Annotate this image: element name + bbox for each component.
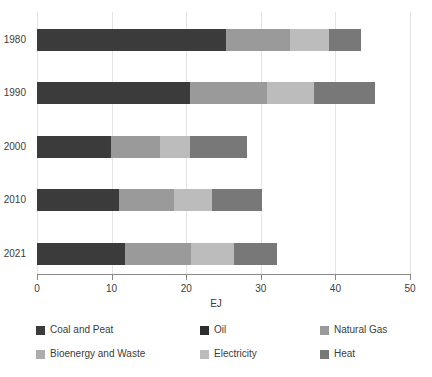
- x-tick-label: 0: [17, 283, 57, 295]
- x-tick-label: 50: [390, 283, 430, 295]
- category-label-1980: 1980: [0, 34, 26, 46]
- chart-legend: Coal and PeatOilNatural GasBioenergy and…: [0, 316, 432, 376]
- bar-segment: [191, 243, 234, 265]
- bar-segment: [174, 189, 212, 211]
- bar-segment: [160, 136, 190, 158]
- bar-segment: [190, 82, 267, 104]
- bar-segment: [37, 243, 125, 265]
- x-tick-label: 20: [166, 283, 206, 295]
- bar-segment: [37, 82, 190, 104]
- legend-label: Coal and Peat: [50, 324, 113, 336]
- bar-segment: [37, 29, 226, 51]
- legend-item[interactable]: Electricity: [200, 348, 257, 360]
- legend-item[interactable]: Natural Gas: [320, 324, 387, 336]
- legend-label: Electricity: [214, 348, 257, 360]
- bar-segment: [290, 29, 329, 51]
- legend-label: Natural Gas: [334, 324, 387, 336]
- category-label-2000: 2000: [0, 141, 26, 153]
- bar-segment: [125, 243, 191, 265]
- tick-mark: [410, 275, 411, 280]
- gridline: [410, 12, 411, 274]
- x-axis-line: [37, 274, 411, 275]
- legend-swatch-icon: [200, 326, 209, 335]
- bar-segment: [314, 82, 375, 104]
- legend-item[interactable]: Oil: [200, 324, 226, 336]
- bar-segment: [226, 29, 289, 51]
- legend-swatch-icon: [320, 350, 329, 359]
- tick-mark: [186, 275, 187, 280]
- bar-segment: [190, 136, 247, 158]
- tick-mark: [261, 275, 262, 280]
- bar-segment: [234, 243, 277, 265]
- bar-segment: [329, 29, 361, 51]
- x-axis-title: EJ: [0, 298, 432, 309]
- bar-segment: [37, 189, 119, 211]
- category-label-1990: 1990: [0, 87, 26, 99]
- tick-mark: [335, 275, 336, 280]
- legend-label: Bioenergy and Waste: [50, 348, 145, 360]
- stacked-bar-chart: 01020304050 EJ 19801990200020102021 Coal…: [0, 0, 432, 377]
- x-tick-label: 30: [241, 283, 281, 295]
- legend-item[interactable]: Heat: [320, 348, 355, 360]
- gridline: [261, 12, 262, 274]
- x-tick-label: 40: [315, 283, 355, 295]
- bar-segment: [267, 82, 314, 104]
- plot-area: [37, 12, 410, 274]
- legend-label: Heat: [334, 348, 355, 360]
- tick-mark: [37, 275, 38, 280]
- legend-swatch-icon: [320, 326, 329, 335]
- bar-segment: [212, 189, 261, 211]
- legend-label: Oil: [214, 324, 226, 336]
- legend-item[interactable]: Coal and Peat: [36, 324, 113, 336]
- legend-swatch-icon: [36, 350, 45, 359]
- legend-swatch-icon: [200, 350, 209, 359]
- category-label-2010: 2010: [0, 194, 26, 206]
- legend-item[interactable]: Bioenergy and Waste: [36, 348, 145, 360]
- x-tick-label: 10: [92, 283, 132, 295]
- tick-mark: [112, 275, 113, 280]
- bar-segment: [111, 136, 160, 158]
- category-label-2021: 2021: [0, 248, 26, 260]
- legend-swatch-icon: [36, 326, 45, 335]
- bar-segment: [37, 136, 111, 158]
- bar-segment: [119, 189, 174, 211]
- gridline: [335, 12, 336, 274]
